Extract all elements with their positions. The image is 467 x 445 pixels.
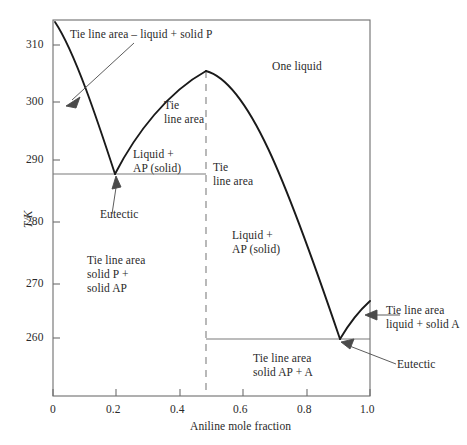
x-axis-title: Aniline mole fraction [190,420,291,434]
x-tick-0.4: 0.4 [170,403,185,417]
annotation-liquid-ap-solid-left: Liquid + AP (solid) [133,147,181,175]
x-tick-0: 0 [50,403,56,417]
annotation-eutectic-right: Eutectic [397,358,435,372]
annotation-eutectic-left: Eutectic [100,208,138,222]
liquidus-ap-right [206,71,340,339]
arrowhead-eutectic-left [112,176,121,189]
y-tick-310: 310 [26,38,44,52]
arrowhead-eutectic-right [341,339,354,349]
arrowhead-tie-line-solid-a [365,310,377,320]
phase-diagram-figure: 310 300 290 280 270 260 0 0.2 0.4 0.6 0.… [0,0,467,445]
x-tick-0.8: 0.8 [297,403,312,417]
liquidus-solid-a [340,301,370,339]
y-tick-300: 300 [26,95,44,109]
liquidus-solid-p [55,22,115,174]
annotation-tie-line-area-right: Tie line area [213,160,253,188]
x-tick-0.6: 0.6 [233,403,248,417]
x-tick-1.0: 1.0 [360,403,375,417]
leader-eutectic-right [347,345,396,364]
y-axis-ticks [53,45,60,338]
annotation-liquid-ap-solid-right: Liquid + AP (solid) [232,228,280,256]
annotation-tie-line-solid-ap-a: Tie line area solid AP + A [253,351,313,379]
annotation-tie-line-liquid-solid-p: Tie line area – liquid + solid P [70,28,212,42]
y-tick-260: 260 [26,331,44,345]
y-tick-290: 290 [26,153,44,167]
phase-diagram-plot [0,0,467,445]
leader-tie-line-solid-p [72,43,134,100]
annotation-one-liquid: One liquid [272,60,322,74]
annotation-tie-line-solid-p-solid-ap: Tie line area solid P + solid AP [87,253,145,295]
x-axis-ticks [53,389,370,396]
annotation-tie-line-liquid-solid-a: Tie line area liquid + solid A [386,303,460,331]
y-axis-title: T/K [22,210,36,228]
y-tick-270: 270 [26,277,44,291]
annotation-tie-line-area-upper: Tie line area [164,98,204,126]
x-tick-0.2: 0.2 [106,403,121,417]
